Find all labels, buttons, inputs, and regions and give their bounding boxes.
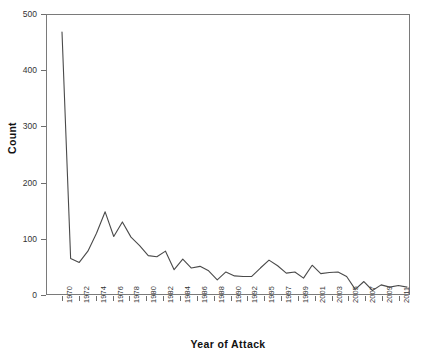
x-tick-mark [365,296,366,301]
x-tick-mark [96,296,97,301]
x-tick-mark [399,296,400,301]
x-tick-mark [298,296,299,301]
x-tick-mark [264,296,265,301]
x-tick-mark [62,296,63,301]
x-tick-mark [214,296,215,301]
x-tick-mark [382,296,383,301]
x-tick-mark [180,296,181,301]
x-tick-mark [163,296,164,301]
data-series-line [46,14,410,295]
line-chart: Count 0100200300400500 19701972197419761… [0,0,428,360]
x-tick-mark [197,296,198,301]
y-tick-label: 500 [0,8,44,20]
x-tick-mark [348,296,349,301]
x-tick-mark [231,296,232,301]
x-tick-mark [332,296,333,301]
x-tick-mark [281,296,282,301]
x-axis-title: Year of Attack [46,338,410,350]
x-tick-mark [129,296,130,301]
x-tick-mark [146,296,147,301]
y-tick-label: 200 [0,177,44,189]
x-tick-mark [113,296,114,301]
y-tick-mark [41,295,46,296]
y-tick-label: 100 [0,233,44,245]
y-tick-label: 0 [0,289,44,301]
y-axis-title: Count [6,106,18,170]
y-tick-label: 400 [0,64,44,76]
y-tick-label: 300 [0,120,44,132]
x-tick-mark [247,296,248,301]
x-tick-mark [315,296,316,301]
x-tick-mark [79,296,80,301]
